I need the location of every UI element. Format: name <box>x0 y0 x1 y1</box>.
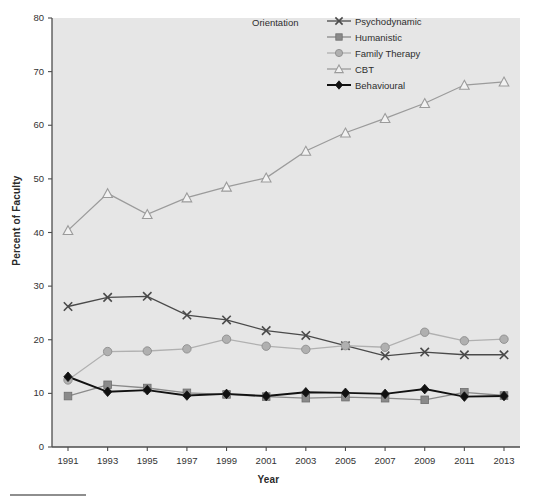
legend-swatch-x-icon <box>326 14 352 28</box>
x-tick-label: 2013 <box>484 455 524 466</box>
x-tick-label: 2007 <box>365 455 405 466</box>
legend-swatch-diamond-icon <box>326 78 352 92</box>
legend-item-family-therapy: Family Therapy <box>326 46 420 62</box>
legend-swatch-square-icon <box>326 30 352 44</box>
x-tick-label: 1991 <box>48 455 88 466</box>
x-axis-title: Year <box>0 474 537 485</box>
y-tick-label: 40 <box>14 227 44 238</box>
legend-title: Orientation <box>252 17 298 28</box>
legend-label: Psychodynamic <box>355 16 422 27</box>
y-tick-label: 10 <box>14 387 44 398</box>
x-tick-label: 1993 <box>88 455 128 466</box>
page-rule-artifact <box>10 494 86 496</box>
y-tick-label: 30 <box>14 280 44 291</box>
x-tick-label: 2003 <box>286 455 326 466</box>
x-tick-label: 1997 <box>167 455 207 466</box>
legend-item-cbt: CBT <box>326 62 374 78</box>
legend-label: Humanistic <box>355 32 402 43</box>
chart-canvas <box>0 0 537 503</box>
x-tick-label: 1995 <box>127 455 167 466</box>
y-tick-label: 0 <box>14 441 44 452</box>
y-tick-label: 80 <box>14 12 44 23</box>
legend-item-behavioural: Behavioural <box>326 78 405 94</box>
x-tick-label: 2001 <box>246 455 286 466</box>
x-tick-label: 2005 <box>325 455 365 466</box>
x-tick-label: 1999 <box>207 455 247 466</box>
y-tick-label: 20 <box>14 334 44 345</box>
legend-swatch-triangle-icon <box>326 62 352 76</box>
x-tick-label: 2011 <box>444 455 484 466</box>
line-chart: Percent of Faculty Year 0102030405060708… <box>0 0 537 503</box>
legend-item-humanistic: Humanistic <box>326 30 402 46</box>
y-tick-label: 70 <box>14 66 44 77</box>
y-tick-label: 60 <box>14 119 44 130</box>
y-tick-label: 50 <box>14 173 44 184</box>
legend-label: Family Therapy <box>355 48 420 59</box>
legend-swatch-circle-icon <box>326 46 352 60</box>
legend-label: Behavioural <box>355 80 405 91</box>
x-tick-label: 2009 <box>405 455 445 466</box>
legend-item-psychodynamic: Psychodynamic <box>326 14 422 30</box>
legend-label: CBT <box>355 64 374 75</box>
